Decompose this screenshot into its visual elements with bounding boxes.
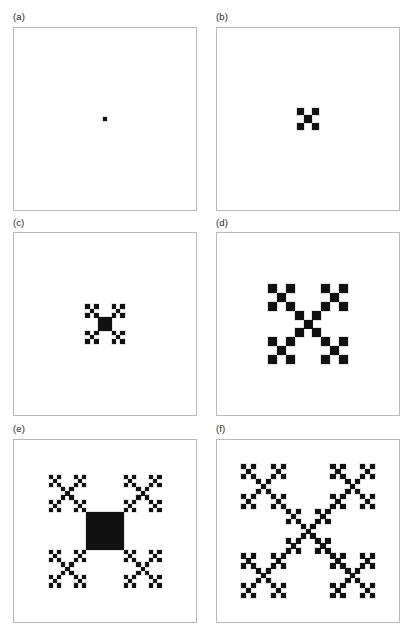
panel-box-f xyxy=(216,439,400,623)
fractal-ink-f xyxy=(241,464,376,599)
panel-label-f: (f) xyxy=(216,424,225,434)
panel-f: (f) xyxy=(0,0,413,632)
fractal-plot-f xyxy=(217,440,399,622)
fractal-figure: (a)(b)(c)(d)(e)(f) xyxy=(0,0,413,632)
